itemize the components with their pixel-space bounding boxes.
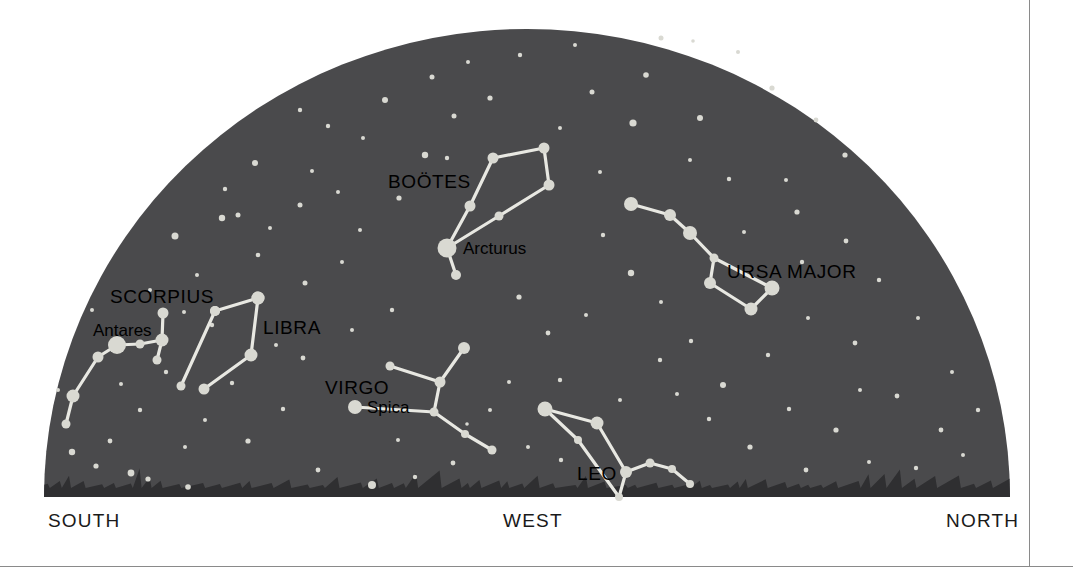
constellation-star [461, 430, 469, 438]
star-label-antares: Antares [93, 321, 152, 340]
compass-label-south: SOUTH [48, 510, 121, 531]
background-star [691, 39, 695, 43]
background-star [69, 449, 75, 455]
background-star [195, 273, 199, 277]
background-star [183, 445, 187, 449]
constellation-star [765, 281, 780, 296]
background-star [877, 278, 881, 282]
background-star [274, 343, 278, 347]
background-star [172, 233, 179, 240]
background-star [281, 407, 285, 411]
background-star [939, 428, 944, 433]
background-star [573, 43, 577, 47]
background-star [413, 475, 417, 479]
background-star [769, 85, 774, 90]
constellation-star [745, 303, 758, 316]
star-label-spica: Spica [367, 398, 410, 417]
star-label-arcturus: Arcturus [463, 239, 526, 258]
background-star [488, 408, 492, 412]
background-star [590, 90, 595, 95]
constellation-star [177, 382, 186, 391]
background-star [336, 190, 340, 194]
background-star [298, 203, 303, 208]
compass-label-west: WEST [503, 510, 563, 531]
background-star [203, 418, 207, 422]
background-star [787, 407, 791, 411]
background-star [298, 108, 302, 112]
sky-chart: BOÖTESArcturusURSA MAJORSCORPIUSAntaresL… [0, 0, 1073, 573]
background-star [108, 439, 113, 444]
background-star [145, 476, 150, 481]
background-star [675, 392, 679, 396]
background-star [223, 187, 227, 191]
background-star [245, 438, 250, 443]
constellation-star [704, 277, 716, 289]
background-star [390, 308, 394, 312]
background-star [138, 408, 142, 412]
constellation-star [136, 340, 145, 349]
constellation-label-bo-tes: BOÖTES [388, 171, 471, 192]
constellation-star [435, 377, 446, 388]
background-star [465, 422, 469, 426]
background-star [833, 427, 838, 432]
background-star [301, 356, 306, 361]
sky-dome [44, 29, 1010, 497]
background-star [236, 213, 241, 218]
background-star [720, 382, 726, 388]
constellation-star [153, 356, 162, 365]
background-star [303, 281, 308, 286]
background-star [558, 126, 562, 130]
background-star [93, 463, 98, 468]
background-star [396, 438, 400, 442]
background-star [526, 445, 530, 449]
background-star [230, 381, 234, 385]
constellation-label-virgo: VIRGO [325, 377, 389, 398]
background-star [689, 339, 693, 343]
constellation-star [710, 254, 719, 263]
constellation-star [538, 402, 553, 417]
background-star [340, 260, 344, 264]
background-star [914, 466, 918, 470]
background-star [164, 370, 168, 374]
background-star [950, 370, 954, 374]
background-star [794, 209, 799, 214]
constellation-star [620, 466, 632, 478]
constellation-star [93, 352, 104, 363]
constellation-star [624, 197, 638, 211]
constellation-label-scorpius: SCORPIUS [110, 286, 214, 307]
background-star [422, 152, 428, 158]
compass-label-north: NORTH [946, 510, 1019, 531]
background-star [316, 468, 321, 473]
background-star [804, 468, 809, 473]
constellation-label-leo: LEO [577, 463, 617, 484]
background-star [466, 60, 470, 64]
constellation-star [615, 493, 623, 501]
background-star [451, 461, 456, 466]
background-star [310, 169, 314, 173]
background-star [559, 458, 563, 462]
background-star [842, 152, 847, 157]
constellation-star [664, 209, 676, 221]
background-star [814, 118, 819, 123]
constellation-star [646, 459, 655, 468]
constellation-star [210, 306, 220, 316]
background-star [350, 328, 354, 332]
named-star [348, 400, 362, 414]
background-star [858, 388, 862, 392]
background-star [844, 239, 849, 244]
background-star [643, 72, 649, 78]
background-star [961, 453, 965, 457]
constellation-star [683, 226, 697, 240]
background-star [452, 114, 457, 119]
background-star [618, 398, 622, 402]
background-star [182, 310, 186, 314]
constellation-star [158, 308, 169, 319]
background-star [396, 195, 401, 200]
constellation-star [458, 342, 470, 354]
background-star [358, 228, 362, 232]
background-star [516, 294, 521, 299]
constellation-star [574, 436, 582, 444]
background-star [445, 156, 449, 160]
background-star [558, 378, 562, 382]
background-star [268, 226, 272, 230]
